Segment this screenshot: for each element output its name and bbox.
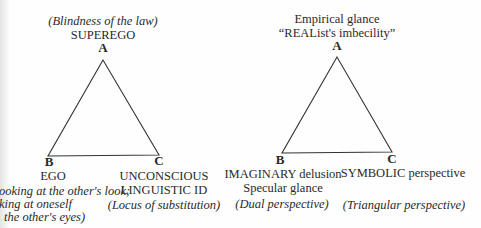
right-b-label-1: IMAGINARY delusion: [224, 167, 341, 181]
right-vertex-b: B: [276, 153, 285, 167]
right-c-label: SYMBOLIC perspective: [341, 166, 466, 180]
right-vertex-a: A: [332, 39, 341, 53]
left-apex-note: (Blindness of the law): [48, 14, 157, 28]
right-triangle: [282, 57, 392, 153]
right-b-label-2: Specular glance: [243, 181, 322, 195]
left-c-label-2: LINGUISTIC ID: [121, 183, 207, 197]
right-apex-label-1: Empirical glance: [294, 12, 379, 26]
left-ego-note-2: king at oneself: [0, 197, 72, 211]
left-vertex-a: A: [98, 41, 107, 55]
left-vertex-b: B: [45, 155, 54, 169]
left-triangle: [48, 60, 159, 156]
left-c-note: (Locus of substitution): [108, 198, 221, 212]
left-c-label-1: UNCONSCIOUS: [120, 169, 209, 183]
left-ego-note-1: ooking at the other's look;: [0, 184, 130, 198]
right-c-note: (Triangular perspective): [343, 198, 466, 212]
left-ego-note-3: the other's eyes): [4, 210, 85, 224]
left-ego-label: EGO: [40, 169, 66, 183]
right-b-note: (Dual perspective): [235, 197, 328, 211]
right-vertex-c: C: [387, 152, 396, 166]
left-vertex-c: C: [154, 154, 163, 168]
